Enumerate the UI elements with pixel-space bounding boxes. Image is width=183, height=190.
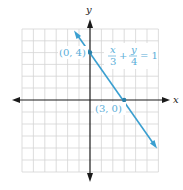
point-3-0	[122, 98, 126, 102]
point-label-3-0: (3, 0)	[95, 103, 122, 114]
y-axis-up-arrow-icon	[87, 19, 93, 28]
y-axis-label: y	[85, 4, 92, 15]
eq-rhs: = 1	[140, 50, 158, 61]
x-axis-label: x	[173, 94, 179, 105]
point-0-4	[88, 50, 92, 54]
eq-num-x: x	[110, 44, 116, 55]
graph: y x (0, 4) (3, 0) x 3 + y 4 = 1	[0, 0, 183, 190]
point-label-0-4: (0, 4)	[59, 47, 86, 58]
y-axis-down-arrow-icon	[87, 173, 93, 182]
equation-label: x 3 + y 4 = 1	[104, 43, 158, 69]
eq-num-y: y	[130, 44, 137, 55]
x-axis-right-arrow-icon	[162, 97, 170, 103]
eq-plus: +	[119, 50, 127, 61]
x-axis-left-arrow-icon	[12, 97, 20, 103]
eq-den-3: 3	[110, 56, 116, 67]
eq-den-4: 4	[131, 56, 137, 67]
